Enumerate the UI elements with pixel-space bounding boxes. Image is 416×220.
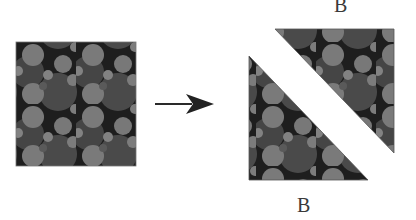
diagram-stage: B B bbox=[0, 0, 416, 220]
diagram-canvas bbox=[0, 0, 416, 220]
lower-triangle-label: B bbox=[297, 195, 310, 215]
transform-arrow bbox=[155, 94, 214, 114]
upper-triangle-label: B bbox=[334, 0, 347, 15]
source-square bbox=[16, 42, 136, 166]
